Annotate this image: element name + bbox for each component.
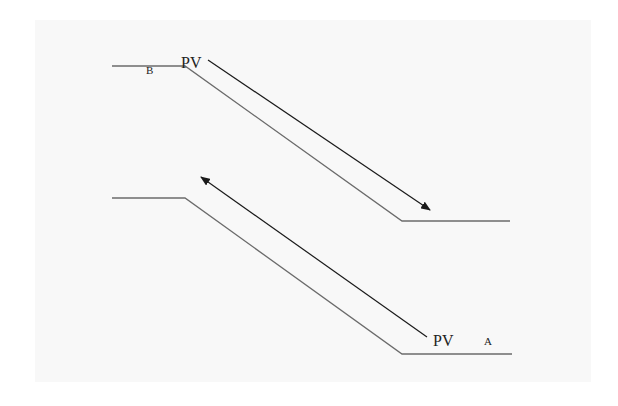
label-point-a: A [484, 335, 492, 347]
label-pv-top: PV [181, 54, 202, 71]
label-point-b: B [146, 64, 153, 76]
diagram-canvas: B PV PV A [0, 0, 618, 406]
arrow-up-left-icon [201, 177, 427, 337]
label-pv-bottom: PV [433, 332, 454, 349]
arrow-down-right-icon [208, 60, 430, 210]
